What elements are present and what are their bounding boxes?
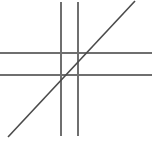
diagram-canvas — [0, 0, 157, 143]
line-diagram-figure — [0, 0, 157, 143]
